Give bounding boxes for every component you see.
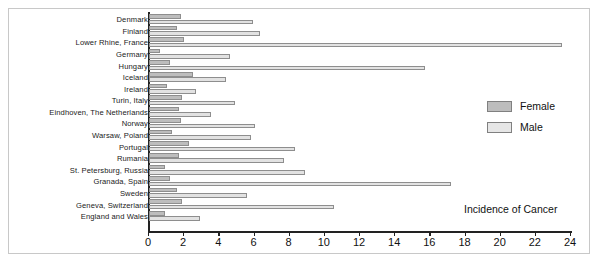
- bar-female: [149, 37, 184, 42]
- bar-female: [149, 199, 182, 204]
- bar-male: [149, 135, 251, 140]
- chart-row: Sweden: [0, 187, 599, 199]
- bar-male: [149, 89, 196, 94]
- legend-swatch-female-icon: [487, 101, 512, 112]
- x-tick-label: 10: [318, 236, 330, 248]
- legend-swatch-male-icon: [487, 122, 512, 133]
- chart-row: Finland: [0, 25, 599, 37]
- bar-male: [149, 54, 230, 59]
- x-tick-label: 12: [353, 236, 365, 248]
- bar-male: [149, 147, 295, 152]
- bar-female: [149, 95, 182, 100]
- bar-male: [149, 193, 247, 198]
- bar-chart-plot: DenmarkFinlandLower Rhine, FranceGermany…: [0, 0, 599, 264]
- legend-label-male: Male: [520, 121, 543, 133]
- bar-female: [149, 14, 181, 19]
- chart-row: Portugal: [0, 141, 599, 153]
- bar-male: [149, 43, 562, 48]
- category-label: Finland: [122, 26, 148, 35]
- x-axis-title: Incidence of Cancer: [464, 203, 557, 215]
- bar-female: [149, 72, 193, 77]
- category-label: St. Petersburg, Russia: [70, 165, 148, 174]
- bar-female: [149, 211, 165, 216]
- bar-male: [149, 158, 284, 163]
- category-label: Germany: [116, 50, 148, 59]
- category-label: Lower Rhine, France: [76, 38, 148, 47]
- legend-item-male: Male: [487, 121, 555, 133]
- x-tick-label: 6: [250, 236, 256, 248]
- chart-row: St. Petersburg, Russia: [0, 164, 599, 176]
- bar-male: [149, 112, 211, 117]
- category-label: Eindhoven, The Netherlands: [49, 107, 148, 116]
- bar-female: [149, 118, 181, 123]
- x-tick-label: 14: [388, 236, 400, 248]
- chart-row: Germany: [0, 48, 599, 60]
- chart-legend: Female Male: [487, 100, 555, 142]
- category-label: Sweden: [120, 188, 148, 197]
- chart-row: Lower Rhine, France: [0, 37, 599, 49]
- bar-male: [149, 101, 235, 106]
- category-label: England and Wales: [81, 212, 148, 221]
- bar-male: [149, 31, 260, 36]
- category-label: Rumania: [117, 154, 148, 163]
- x-tick-label: 24: [564, 236, 576, 248]
- bar-female: [149, 188, 177, 193]
- category-label: Norway: [122, 119, 148, 128]
- bar-female: [149, 141, 189, 146]
- x-tick-label: 18: [458, 236, 470, 248]
- bar-female: [149, 165, 165, 170]
- x-tick-label: 4: [215, 236, 221, 248]
- chart-row: Rumania: [0, 152, 599, 164]
- category-label: Iceland: [123, 73, 148, 82]
- chart-row: Granada, Spain: [0, 176, 599, 188]
- chart-row: Ireland: [0, 83, 599, 95]
- x-tick-label: 0: [145, 236, 151, 248]
- bar-female: [149, 49, 160, 54]
- legend-label-female: Female: [520, 100, 555, 112]
- x-tick-label: 8: [286, 236, 292, 248]
- bar-female: [149, 176, 170, 181]
- bar-female: [149, 60, 170, 65]
- chart-row: Denmark: [0, 14, 599, 26]
- bar-female: [149, 130, 172, 135]
- category-label: Turin, Italy: [112, 96, 148, 105]
- x-tick-label: 20: [494, 236, 506, 248]
- category-label: Warsaw, Poland: [92, 131, 148, 140]
- category-label: Portugal: [119, 142, 148, 151]
- bar-male: [149, 182, 451, 187]
- x-tick-label: 16: [423, 236, 435, 248]
- legend-item-female: Female: [487, 100, 555, 112]
- bar-male: [149, 20, 253, 25]
- bar-male: [149, 170, 305, 175]
- category-label: Ireland: [124, 84, 148, 93]
- chart-row: Iceland: [0, 71, 599, 83]
- bar-male: [149, 124, 255, 129]
- x-tick-label: 2: [180, 236, 186, 248]
- bar-female: [149, 153, 179, 158]
- bar-male: [149, 77, 226, 82]
- bar-female: [149, 107, 179, 112]
- x-tick-label: 22: [529, 236, 541, 248]
- category-label: Geneva, Switzerland: [76, 200, 148, 209]
- bar-male: [149, 216, 200, 221]
- chart-row: Hungary: [0, 60, 599, 72]
- category-label: Hungary: [119, 61, 148, 70]
- category-label: Denmark: [116, 15, 148, 24]
- bar-female: [149, 84, 167, 89]
- bar-male: [149, 66, 425, 71]
- bar-male: [149, 205, 334, 210]
- category-label: Granada, Spain: [93, 177, 148, 186]
- cancer-incidence-figure: DenmarkFinlandLower Rhine, FranceGermany…: [0, 0, 599, 264]
- bar-female: [149, 26, 177, 31]
